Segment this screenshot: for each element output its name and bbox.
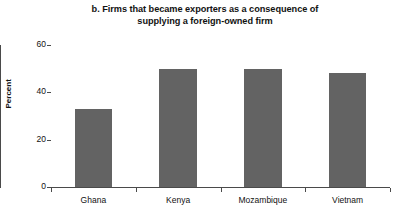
y-axis-tick-label: 20 bbox=[6, 135, 46, 144]
x-axis-tick bbox=[136, 188, 137, 192]
bar-chart-figure: b. Firms that became exporters as a cons… bbox=[0, 0, 402, 222]
chart-title: b. Firms that became exporters as a cons… bbox=[40, 4, 370, 27]
x-axis-label-kenya: Kenya bbox=[136, 196, 221, 205]
bar-kenya bbox=[159, 69, 196, 187]
y-axis-line bbox=[0, 45, 1, 188]
chart-title-line-2: supplying a foreign-owned firm bbox=[40, 16, 370, 28]
x-axis-label-vietnam: Vietnam bbox=[305, 196, 390, 205]
x-axis-label-ghana: Ghana bbox=[51, 196, 136, 205]
x-axis-tick bbox=[390, 188, 391, 192]
x-axis-tick bbox=[305, 188, 306, 192]
x-axis-label-mozambique: Mozambique bbox=[221, 196, 306, 205]
y-axis-tick-label: 40 bbox=[6, 87, 46, 96]
bar-ghana bbox=[75, 109, 112, 187]
bar-mozambique bbox=[244, 69, 281, 187]
y-axis-tick-label: 60 bbox=[6, 40, 46, 49]
y-axis-tick-label: 0 bbox=[6, 182, 46, 191]
x-axis-tick bbox=[51, 188, 52, 192]
bar-vietnam bbox=[329, 73, 366, 187]
plot-area bbox=[51, 45, 390, 187]
chart-title-line-1: b. Firms that became exporters as a cons… bbox=[40, 4, 370, 16]
x-axis-tick bbox=[221, 188, 222, 192]
